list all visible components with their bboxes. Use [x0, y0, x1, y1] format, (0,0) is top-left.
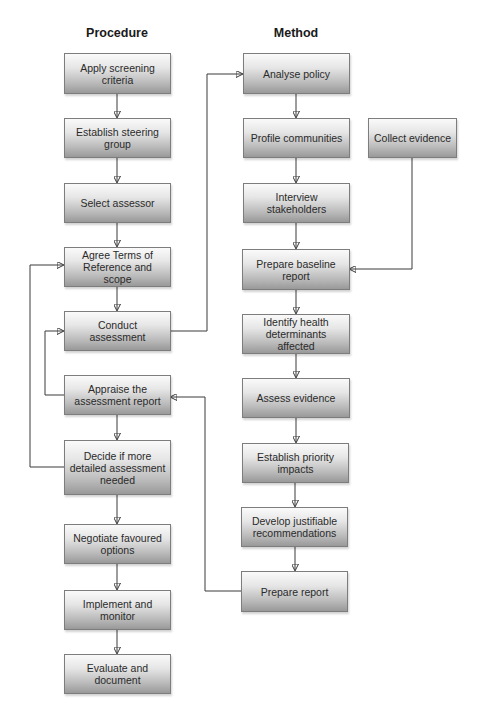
method-collect-evidence: Collect evidence [368, 118, 457, 158]
step-label: Interview stakeholders [248, 191, 345, 215]
method-step-profile-communities: Profile communities [243, 118, 350, 158]
method-step-develop-recommendations: Develop justifiable recommendations [241, 507, 348, 547]
step-label: Evaluate and document [69, 662, 166, 686]
procedure-step-appraise-report: Appraise the assessment report [64, 375, 171, 415]
step-label: Analyse policy [263, 68, 330, 80]
flowchart-canvas: Procedure Method [0, 0, 483, 716]
step-label: Decide if more detailed assessment neede… [69, 450, 166, 486]
step-label: Assess evidence [257, 392, 336, 404]
procedure-step-agree-terms: Agree Terms of Reference and scope [64, 247, 171, 287]
step-label: Implement and monitor [69, 598, 166, 622]
method-step-assess-evidence: Assess evidence [242, 378, 350, 418]
procedure-title: Procedure [47, 26, 187, 40]
step-label: Profile communities [251, 132, 343, 144]
step-label: Appraise the assessment report [69, 383, 166, 407]
method-step-interview-stakeholders: Interview stakeholders [243, 183, 350, 223]
procedure-step-negotiate-options: Negotiate favoured options [64, 524, 171, 564]
step-label: Apply screening criteria [69, 62, 166, 86]
step-label: Collect evidence [374, 132, 451, 144]
method-step-prepare-report: Prepare report [241, 571, 348, 612]
step-label: Select assessor [80, 197, 154, 209]
procedure-step-select-assessor: Select assessor [64, 183, 171, 223]
procedure-step-establish-steering: Establish steering group [64, 118, 171, 158]
step-label: Identify health determinants affected [247, 316, 345, 352]
procedure-step-conduct-assessment: Conduct assessment [64, 311, 171, 351]
procedure-step-implement-monitor: Implement and monitor [64, 590, 171, 630]
step-label: Negotiate favoured options [69, 532, 166, 556]
method-step-identify-determinants: Identify health determinants affected [242, 314, 350, 354]
method-step-analyse-policy: Analyse policy [243, 53, 350, 94]
step-label: Establish priority impacts [247, 451, 344, 475]
step-label: Develop justifiable recommendations [246, 515, 343, 539]
method-step-prepare-baseline: Prepare baseline report [242, 249, 350, 290]
method-step-establish-priority: Establish priority impacts [242, 443, 349, 483]
procedure-step-apply-screening: Apply screening criteria [64, 53, 171, 94]
procedure-step-evaluate-document: Evaluate and document [64, 654, 171, 694]
method-title: Method [226, 26, 366, 40]
step-label: Conduct assessment [69, 319, 166, 343]
step-label: Prepare report [261, 586, 329, 598]
step-label: Establish steering group [69, 126, 166, 150]
step-label: Agree Terms of Reference and scope [69, 249, 166, 285]
step-label: Prepare baseline report [247, 258, 345, 282]
procedure-step-decide-detailed: Decide if more detailed assessment neede… [64, 440, 171, 495]
